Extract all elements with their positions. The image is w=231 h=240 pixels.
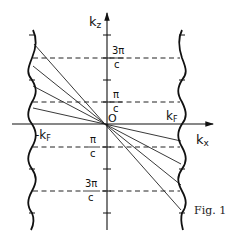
svg-text:3π: 3π <box>112 45 124 56</box>
kf-left-label: -kF <box>35 128 51 143</box>
svg-text:π: π <box>90 134 96 145</box>
figure-caption: Fig. 1 <box>194 204 226 217</box>
svg-text:c: c <box>114 59 120 70</box>
figure: kz kx O kF -kF 3π c π c π c 3π c <box>0 0 231 240</box>
fermi-surface-right <box>178 30 186 230</box>
svg-text:3π: 3π <box>85 178 97 189</box>
fermi-surface-diagram: kz kx O kF -kF 3π c π c π c 3π c <box>0 0 231 240</box>
svg-text:c: c <box>88 192 94 203</box>
svg-text:c: c <box>113 103 119 114</box>
kf-right-label: kF <box>166 109 178 124</box>
level-3pi-c-lower: 3π c <box>82 178 102 203</box>
level-pi-c-lower: π c <box>88 134 102 160</box>
svg-text:π: π <box>113 89 119 100</box>
kx-label: kx <box>196 132 210 148</box>
kz-label: kz <box>89 14 102 30</box>
svg-text:c: c <box>90 148 96 159</box>
